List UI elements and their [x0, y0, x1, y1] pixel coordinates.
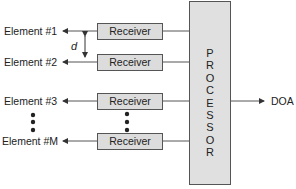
processor-label: P R O C E S S O R	[190, 47, 230, 159]
ellipsis-dot	[125, 128, 129, 132]
spacing-label: d	[71, 40, 77, 52]
processor-box: P R O C E S S O R	[189, 1, 231, 185]
processor-letter: R	[190, 146, 230, 158]
element-label-2: Element #2	[4, 56, 57, 68]
ellipsis-dot	[125, 112, 129, 116]
processor-letter: E	[190, 97, 230, 109]
processor-letter: S	[190, 121, 230, 133]
processor-letter: S	[190, 109, 230, 121]
processor-letter: R	[190, 59, 230, 71]
element-label-m: Element #M	[2, 135, 58, 147]
ellipsis-dot	[31, 113, 35, 117]
receiver-box-3: Receiver	[97, 93, 163, 110]
ellipsis-dot	[31, 120, 35, 124]
processor-letter: O	[190, 134, 230, 146]
element-label-1: Element #1	[4, 25, 57, 37]
processor-letter: O	[190, 72, 230, 84]
processor-letter: C	[190, 84, 230, 96]
ellipsis-dot	[125, 120, 129, 124]
receiver-box-2: Receiver	[97, 54, 163, 71]
processor-letter: P	[190, 47, 230, 59]
element-label-3: Element #3	[4, 95, 57, 107]
output-label-doa: DOA	[271, 95, 294, 107]
receiver-box-m: Receiver	[97, 133, 163, 150]
ellipsis-dot	[31, 128, 35, 132]
receiver-box-1: Receiver	[97, 23, 163, 40]
